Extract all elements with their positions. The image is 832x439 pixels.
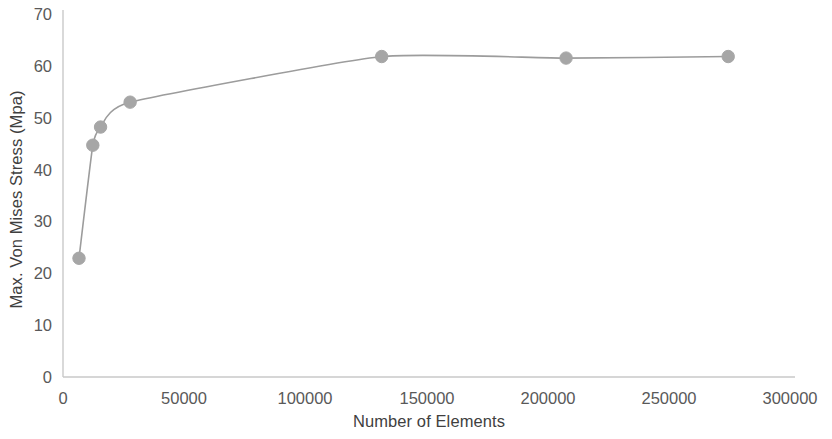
data-point-marker <box>375 50 387 62</box>
data-point-marker <box>94 121 106 133</box>
data-point-marker <box>73 252 85 264</box>
data-point-marker <box>560 52 572 64</box>
data-point-marker <box>87 139 99 151</box>
chart-figure: Max. Von Mises Stress (Mpa) Number of El… <box>0 0 832 439</box>
data-point-marker <box>722 50 734 62</box>
series-markers <box>73 50 735 264</box>
plot-area <box>0 0 832 439</box>
series-line <box>79 55 728 258</box>
data-point-marker <box>124 96 136 108</box>
